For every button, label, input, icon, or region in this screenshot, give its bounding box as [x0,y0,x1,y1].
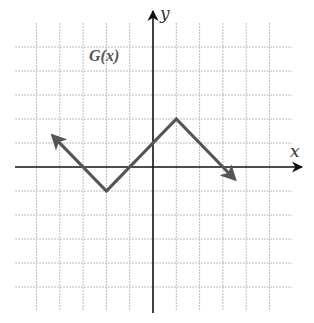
y-axis-label: y [160,3,170,23]
x-axis-label: x [290,141,300,161]
axes [15,11,302,313]
function-curve [53,119,235,191]
graph-plot [0,0,314,323]
function-label: G(x) [89,47,119,65]
